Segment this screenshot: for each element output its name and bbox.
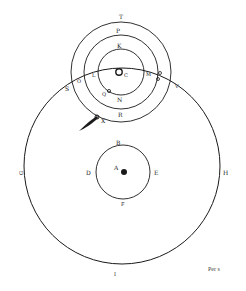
earth-icon xyxy=(116,69,122,75)
label-i: I xyxy=(114,271,116,277)
label-p: P xyxy=(116,27,120,34)
astronomical-diagram: T P K C N R X S O L M V Q B A D E F G H … xyxy=(0,0,246,291)
label-o: O xyxy=(77,78,81,84)
label-e: E xyxy=(154,169,158,176)
label-l: L xyxy=(92,72,96,78)
label-s: S xyxy=(65,85,69,92)
label-r: R xyxy=(118,111,123,118)
label-v: V xyxy=(174,83,179,89)
label-b: B xyxy=(116,139,121,146)
upper-outer-circle xyxy=(71,22,171,122)
page-caption: Per s xyxy=(208,266,220,272)
upper-inner-circle xyxy=(98,49,144,95)
sun-icon xyxy=(121,169,127,175)
label-m: M xyxy=(146,71,151,77)
label-a: A xyxy=(113,164,119,171)
planet-symbol-icon xyxy=(159,72,162,75)
label-d: D xyxy=(86,169,91,176)
label-t: T xyxy=(119,13,123,20)
label-n: N xyxy=(117,96,122,103)
label-c: C xyxy=(124,72,128,78)
label-f: F xyxy=(121,201,125,207)
moon-icon xyxy=(124,143,127,150)
label-x: X xyxy=(101,117,106,124)
label-q: Q xyxy=(102,91,106,97)
label-g: G xyxy=(18,171,24,175)
label-k: K xyxy=(117,42,122,49)
label-h: H xyxy=(223,169,228,176)
